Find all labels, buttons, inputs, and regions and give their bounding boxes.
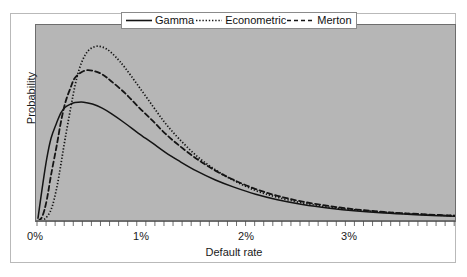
plot-area (35, 24, 456, 221)
legend-swatch-dashed-icon (287, 15, 315, 26)
legend-item-econometric: Econometric (195, 13, 287, 28)
legend-item-merton: Merton (287, 13, 352, 28)
x-axis-title: Default rate (11, 246, 457, 258)
series-line-gamma (38, 102, 456, 218)
legend-swatch-solid-icon (125, 15, 153, 26)
legend-swatch-dotted-icon (195, 15, 223, 26)
x-tick-label-3: 3% (329, 230, 369, 242)
figure-container: Probability 0% 1% 2% 3% Default rate Gam… (10, 13, 456, 263)
x-tick-label-0: 0% (15, 230, 55, 242)
x-tick-label-2: 2% (226, 230, 266, 242)
series-line-merton (38, 70, 456, 221)
legend: Gamma Econometric Merton (121, 12, 357, 29)
plot-curves (36, 25, 456, 221)
legend-label-econometric: Econometric (223, 15, 287, 26)
y-axis-title: Probability (25, 38, 37, 158)
x-axis-tick-band (35, 221, 456, 228)
x-tick-label-1: 1% (121, 230, 161, 242)
legend-item-gamma: Gamma (125, 13, 195, 28)
legend-label-merton: Merton (315, 15, 352, 26)
series-line-econometric (38, 46, 456, 221)
legend-label-gamma: Gamma (153, 15, 195, 26)
